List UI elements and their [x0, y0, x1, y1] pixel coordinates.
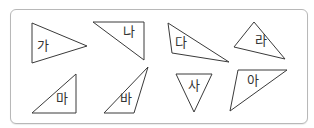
label-ra: 라 [255, 34, 267, 47]
label-ga: 가 [37, 39, 49, 52]
triangle-na [93, 22, 144, 60]
triangle-ma [32, 74, 76, 113]
label-da: 다 [175, 36, 187, 49]
triangles-canvas [0, 0, 314, 128]
label-sa: 사 [188, 79, 200, 92]
label-ma: 마 [56, 92, 68, 105]
label-ba: 바 [120, 92, 132, 105]
label-na: 나 [123, 25, 135, 38]
label-a: 아 [247, 74, 259, 87]
